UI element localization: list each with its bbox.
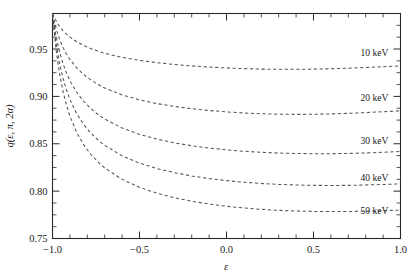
chart-svg: −1.0−0.50.00.51.00.750.800.850.900.95 10… [0,0,414,276]
y-tick-label: 0.95 [29,44,47,55]
y-tick-label: 0.75 [29,233,47,244]
curve-40kev [53,15,401,186]
y-tick-label: 0.85 [29,138,47,149]
axis-ticks [53,14,401,239]
curve-label-50kev: 50 keV [361,206,389,216]
figure-container: −1.0−0.50.00.51.00.750.800.850.900.95 10… [0,0,414,276]
curve-label-30kev: 30 keV [361,136,389,146]
y-tick-label: 0.90 [29,91,47,102]
x-tick-label: −1.0 [43,244,62,255]
y-tick-label: 0.80 [29,186,47,197]
curve-50kev [53,15,401,211]
x-axis-label: ε [224,261,229,272]
x-tick-label: 0.0 [220,244,233,255]
curve-label-10kev: 10 keV [361,48,389,58]
y-axis-label: q(ε, π, 2α) [4,104,16,147]
curve-group [53,14,401,212]
curve-10kev [53,14,401,70]
plot-frame [53,14,401,239]
curve-label-40kev: 40 keV [361,173,389,183]
curve-20kev [53,14,401,114]
x-tick-label: 0.5 [307,244,320,255]
curve-label-group: 10 keV20 keV30 keV40 keV50 keV [361,48,389,216]
x-tick-label: −0.5 [130,244,149,255]
curve-label-20kev: 20 keV [361,93,389,103]
x-tick-label: 1.0 [394,244,407,255]
curve-30kev [53,14,401,153]
plot-border [53,14,401,239]
